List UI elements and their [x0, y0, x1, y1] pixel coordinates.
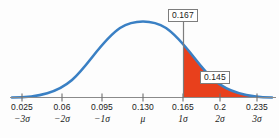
x-tick-sigma-3: μ — [141, 113, 146, 125]
peak-value-callout: 0.167 — [168, 9, 198, 22]
x-axis-value-labels: 0.025 0.06 0.095 0.130 0.165 0.2 0.235 — [0, 101, 279, 113]
x-tick-value-0: 0.025 — [11, 101, 33, 113]
x-tick-value-1: 0.06 — [54, 101, 71, 113]
x-axis-sigma-labels: −3σ −2σ −1σ μ 1σ 2σ 3σ — [0, 113, 279, 125]
x-tick-value-4: 0.165 — [172, 101, 194, 113]
x-tick-sigma-5: 2σ — [215, 113, 225, 125]
x-tick-value-3: 0.130 — [132, 101, 154, 113]
bell-curve — [12, 22, 272, 98]
x-tick-value-2: 0.095 — [91, 101, 113, 113]
x-tick-sigma-2: −1σ — [94, 113, 110, 125]
tail-area-callout: 0.145 — [200, 71, 230, 84]
x-tick-sigma-1: −2σ — [54, 113, 70, 125]
normal-distribution-figure: 0.167 0.145 0.025 0.06 0.095 0.130 0.165… — [0, 0, 279, 138]
shaded-tail-area — [12, 22, 272, 98]
x-tick-value-6: 0.235 — [246, 101, 268, 113]
x-tick-sigma-6: 3σ — [252, 113, 262, 125]
x-tick-value-5: 0.2 — [214, 101, 226, 113]
x-tick-sigma-0: −3σ — [14, 113, 30, 125]
x-tick-sigma-4: 1σ — [178, 113, 188, 125]
